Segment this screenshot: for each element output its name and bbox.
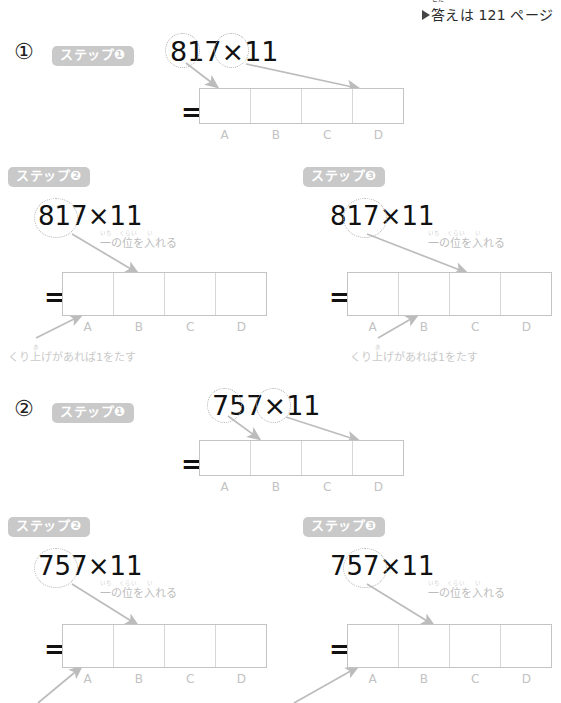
label-a: A [347, 672, 398, 686]
badge-p2-step3: ステップ❸ [303, 516, 385, 537]
cell-b[interactable] [399, 625, 450, 667]
circle-digits-57 [343, 548, 387, 588]
cell-d[interactable] [501, 625, 551, 667]
expression-p1-step2: 817×11 [38, 203, 143, 229]
cell-a[interactable] [63, 273, 114, 315]
circle-digit-7-first [207, 388, 242, 423]
cell-b[interactable] [114, 625, 165, 667]
label-b: B [398, 672, 449, 686]
cell-a[interactable] [348, 273, 399, 315]
cell-b[interactable] [251, 89, 302, 123]
label-a: A [62, 672, 113, 686]
cell-c[interactable] [302, 441, 353, 475]
cell-labels-p1-step1: A B C D [199, 128, 404, 142]
label-c: C [450, 672, 501, 686]
cell-labels-p2-step2: A B C D [62, 672, 267, 686]
note-ones-p1-step2: いち一のくらい位をい入れる [100, 238, 177, 249]
note-ones-p1-step3: いち一のくらい位をい入れる [428, 238, 505, 249]
cell-labels-p1-step3: A B C D [347, 320, 552, 334]
cell-d[interactable] [353, 89, 403, 123]
note-carry-p1-step3: くりあ上げがあれば1をたす [350, 352, 478, 363]
label-c: C [302, 480, 353, 494]
cell-c[interactable] [302, 89, 353, 123]
cell-c[interactable] [450, 625, 501, 667]
label-c: C [302, 128, 353, 142]
circle-digits-81 [34, 198, 78, 238]
furigana-kotae: こた [432, 0, 444, 2]
label-a: A [62, 320, 113, 334]
expression-p1-step1: 817×11 [170, 38, 279, 65]
label-d: D [216, 320, 267, 334]
label-d: D [501, 320, 552, 334]
label-a: A [199, 480, 250, 494]
cell-c[interactable] [165, 273, 216, 315]
badge-p1-step2: ステップ❷ [8, 166, 90, 187]
answer-grid-p2-step3[interactable] [347, 624, 552, 668]
badge-p2-step2: ステップ❷ [8, 516, 90, 537]
badge-p2-step1: ステップ❶ [52, 402, 134, 423]
cell-c[interactable] [165, 625, 216, 667]
cell-d[interactable] [216, 273, 266, 315]
cell-labels-p1-step2: A B C D [62, 320, 267, 334]
circle-digit-7-last [256, 388, 291, 423]
label-b: B [250, 128, 301, 142]
expression-p2-step1: 757×11 [212, 392, 321, 419]
answer-grid-p1-step2[interactable] [62, 272, 267, 316]
answer-grid-p2-step2[interactable] [62, 624, 267, 668]
cell-a[interactable] [200, 441, 251, 475]
label-b: B [250, 480, 301, 494]
answer-page-suffix: えは 121 ページ [445, 7, 553, 23]
answer-page-reference: こた答えは 121 ページ [422, 4, 553, 24]
cell-d[interactable] [353, 441, 403, 475]
cell-labels-p2-step1: A B C D [199, 480, 404, 494]
circle-digits-75 [34, 548, 78, 588]
label-c: C [450, 320, 501, 334]
cell-c[interactable] [450, 273, 501, 315]
worksheet-page: こた答えは 121 ページ [0, 0, 561, 703]
note-ones-p2-step3: いち一のくらい位をい入れる [428, 588, 505, 599]
badge-p1-step1: ステップ❶ [52, 45, 134, 66]
label-c: C [165, 320, 216, 334]
badge-p1-step3: ステップ❸ [303, 166, 385, 187]
label-d: D [501, 672, 552, 686]
label-a: A [199, 128, 250, 142]
answer-grid-p1-step1[interactable] [199, 88, 404, 124]
label-d: D [216, 672, 267, 686]
circle-digit-8 [165, 33, 200, 68]
label-c: C [165, 672, 216, 686]
answer-page-text: こた答えは 121 ページ [431, 4, 553, 24]
circle-digit-7 [214, 33, 249, 68]
cell-a[interactable] [200, 89, 251, 123]
cell-b[interactable] [251, 441, 302, 475]
expression-p1-step3: 817×11 [330, 203, 435, 229]
problem-number-1: ① [14, 41, 34, 63]
cell-d[interactable] [501, 273, 551, 315]
triangle-right-icon [422, 10, 430, 20]
cell-labels-p2-step3: A B C D [347, 672, 552, 686]
expression-p2-step3: 757×11 [330, 553, 435, 579]
note-ones-p2-step2: いち一のくらい位をい入れる [100, 588, 177, 599]
answer-grid-p1-step3[interactable] [347, 272, 552, 316]
label-d: D [353, 480, 404, 494]
circle-digits-17 [343, 198, 387, 238]
label-d: D [353, 128, 404, 142]
cell-a[interactable] [63, 625, 114, 667]
label-b: B [398, 320, 449, 334]
expression-p2-step2: 757×11 [38, 553, 143, 579]
cell-d[interactable] [216, 625, 266, 667]
kanji-kotae: 答 [431, 7, 445, 23]
note-carry-p1-step2: くりあ上げがあれば1をたす [8, 352, 136, 363]
answer-grid-p2-step1[interactable] [199, 440, 404, 476]
problem-number-2: ② [14, 398, 34, 420]
cell-b[interactable] [114, 273, 165, 315]
cell-b[interactable] [399, 273, 450, 315]
cell-a[interactable] [348, 625, 399, 667]
label-a: A [347, 320, 398, 334]
label-b: B [113, 672, 164, 686]
label-b: B [113, 320, 164, 334]
